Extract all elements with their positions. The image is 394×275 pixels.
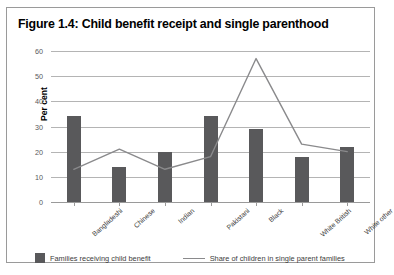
x-axis-tick <box>119 203 120 206</box>
y-axis-tick-label: 40 <box>19 97 43 106</box>
legend-label-line: Share of children in single parent famil… <box>210 254 345 263</box>
y-axis-tick-label: 60 <box>19 47 43 56</box>
legend-swatch-line-icon <box>183 258 205 259</box>
x-axis-tick <box>165 203 166 206</box>
x-axis-tick <box>256 203 257 206</box>
legend-entry-line: Share of children in single parent famil… <box>183 254 345 263</box>
plot-area: Per cent 0102030405060 BangladeshiChines… <box>51 51 370 202</box>
x-axis-category-label: White other <box>363 207 394 236</box>
x-axis-category-label: Chinese <box>133 207 156 229</box>
y-axis-tick-label: 50 <box>19 72 43 81</box>
legend-label-bar: Families receiving child benefit <box>50 254 151 263</box>
x-axis-category-label: Bangladeshi <box>91 207 124 238</box>
x-axis-category-label: Black <box>267 207 284 223</box>
chart-legend: Families receiving child benefit Share o… <box>35 253 345 263</box>
x-axis-category-label: Pakistani <box>225 207 250 231</box>
y-axis-tick-label: 0 <box>19 198 43 207</box>
figure-container: Figure 1.4: Child benefit receipt and si… <box>6 7 375 263</box>
chart-title: Figure 1.4: Child benefit receipt and si… <box>18 17 329 31</box>
line-path <box>74 59 347 170</box>
x-axis-tick <box>211 203 212 206</box>
legend-swatch-bar-icon <box>35 253 45 263</box>
x-axis-category-label: White British <box>319 207 352 238</box>
x-axis-tick <box>74 203 75 206</box>
legend-entry-bar: Families receiving child benefit <box>35 253 151 263</box>
y-axis-tick-label: 10 <box>19 173 43 182</box>
x-axis-category-label: Indian <box>177 207 196 225</box>
x-axis-tick <box>302 203 303 206</box>
line-series <box>51 51 370 202</box>
y-axis-tick-label: 20 <box>19 148 43 157</box>
y-axis-tick-label: 30 <box>19 123 43 132</box>
